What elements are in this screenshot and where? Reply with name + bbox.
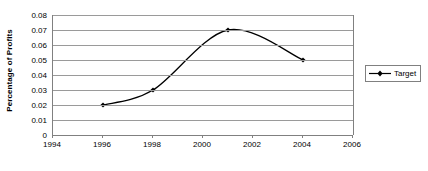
gridline	[53, 90, 353, 91]
gridline	[53, 75, 353, 76]
y-tick-label: 0.07	[18, 26, 47, 35]
x-tick-mark	[252, 135, 253, 138]
gridline	[53, 30, 353, 31]
y-tick-label: 0.05	[18, 56, 47, 65]
x-tick-label: 2004	[293, 140, 311, 149]
gridline	[53, 45, 353, 46]
chart-legend: Target	[365, 65, 421, 82]
y-tick-label: 0.08	[18, 11, 47, 20]
x-tick-mark	[52, 135, 53, 138]
x-tick-mark	[302, 135, 303, 138]
y-tick-label: 0.01	[18, 116, 47, 125]
gridline	[53, 105, 353, 106]
x-axis-ticks: 1994199619982000200220042006	[52, 135, 352, 165]
legend-entry-label: Target	[394, 69, 416, 78]
y-axis-title: Percentage of Profits	[0, 0, 18, 140]
line-chart: Percentage of Profits 00.010.020.030.040…	[0, 0, 428, 171]
x-tick-mark	[102, 135, 103, 138]
y-tick-label: 0.04	[18, 71, 47, 80]
x-tick-mark	[352, 135, 353, 138]
gridline	[53, 120, 353, 121]
gridline	[53, 60, 353, 61]
x-tick-label: 2002	[243, 140, 261, 149]
y-tick-label: 0.03	[18, 86, 47, 95]
gridline	[53, 15, 353, 16]
x-tick-label: 1994	[43, 140, 61, 149]
x-tick-mark	[152, 135, 153, 138]
series-markers-target	[100, 27, 305, 107]
y-tick-label: 0	[18, 131, 47, 140]
plot-area	[52, 15, 354, 135]
x-tick-label: 2000	[193, 140, 211, 149]
x-tick-mark	[202, 135, 203, 138]
y-tick-label: 0.02	[18, 101, 47, 110]
x-tick-label: 1998	[143, 140, 161, 149]
x-tick-label: 2006	[343, 140, 361, 149]
x-tick-label: 1996	[93, 140, 111, 149]
y-axis-title-text: Percentage of Profits	[5, 29, 14, 112]
y-tick-label: 0.06	[18, 41, 47, 50]
legend-marker-icon	[369, 69, 391, 78]
series-line-target	[103, 29, 303, 105]
